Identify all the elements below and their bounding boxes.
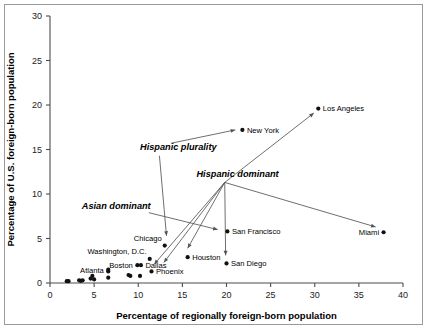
y-tick-label: 0 xyxy=(37,278,42,288)
x-tick-label: 20 xyxy=(221,290,231,300)
x-tick-label: 5 xyxy=(92,290,97,300)
y-tick-label: 15 xyxy=(32,145,42,155)
data-point-label: Washington, D.C. xyxy=(87,247,146,256)
annotation-arrows xyxy=(149,113,376,264)
y-axis-title: Percentage of U.S. foreign-born populati… xyxy=(5,52,16,246)
annotation-arrow-head xyxy=(230,129,235,133)
category-annotation: Asian dominant xyxy=(81,201,152,211)
data-point-label: Houston xyxy=(192,253,220,262)
annotation-labels: Hispanic pluralityHispanic dominantAsian… xyxy=(81,142,280,212)
data-point xyxy=(88,276,92,280)
annotation-arrow-head xyxy=(224,251,228,256)
data-point-label: New York xyxy=(247,126,279,135)
x-tick-label: 35 xyxy=(354,290,364,300)
annotation-leader-line xyxy=(149,213,218,230)
axis-titles: Percentage of regionally foreign-born po… xyxy=(5,52,337,321)
x-tick-label: 25 xyxy=(266,290,276,300)
annotation-leader-line xyxy=(188,182,225,248)
data-point-label: San Francisco xyxy=(232,227,281,236)
y-tick-label: 5 xyxy=(37,234,42,244)
data-point-label: Atlanta xyxy=(80,266,104,275)
y-tick-label: 10 xyxy=(32,189,42,199)
data-point xyxy=(224,261,228,265)
category-annotation: Hispanic plurality xyxy=(140,142,217,152)
data-point-label: Boston xyxy=(109,261,133,270)
x-tick-label: 30 xyxy=(310,290,320,300)
data-point xyxy=(135,263,139,267)
chart-canvas: 0510152025303540051015202530 Los Angeles… xyxy=(0,0,427,332)
data-point xyxy=(138,274,142,278)
category-annotation: Hispanic dominant xyxy=(196,169,279,179)
data-point-label: Miami xyxy=(359,228,380,237)
data-point xyxy=(106,276,110,280)
y-tick-label: 20 xyxy=(32,100,42,110)
x-tick-label: 15 xyxy=(177,290,187,300)
data-point xyxy=(186,255,190,259)
data-point xyxy=(92,277,96,281)
data-point xyxy=(66,279,70,283)
data-point xyxy=(225,229,229,233)
annotation-leader-line xyxy=(154,182,225,264)
figure-border xyxy=(5,5,423,325)
x-tick-label: 10 xyxy=(133,290,143,300)
plot-frame xyxy=(5,5,423,325)
annotation-leader-line xyxy=(164,182,225,262)
scatter-plot-figure: 0510152025303540051015202530 Los Angeles… xyxy=(0,0,427,332)
x-tick-label: 0 xyxy=(47,290,52,300)
data-point-label: Phoenix xyxy=(156,267,184,276)
data-point xyxy=(316,106,320,110)
x-tick-label: 40 xyxy=(398,290,408,300)
data-point-label: Los Angeles xyxy=(323,104,365,113)
y-tick-label: 30 xyxy=(32,11,42,21)
annotation-leader-line xyxy=(225,182,376,227)
y-tick-label: 25 xyxy=(32,56,42,66)
data-point xyxy=(128,274,132,278)
data-point-label: San Diego xyxy=(231,259,266,268)
annotation-leader-line xyxy=(159,156,166,236)
annotation-leader-line xyxy=(225,182,226,255)
data-point xyxy=(163,244,167,248)
data-point-labels: Los AngelesNew YorkMiamiSan FranciscoChi… xyxy=(80,104,379,276)
x-axis-title: Percentage of regionally foreign-born po… xyxy=(116,310,337,321)
data-point xyxy=(381,230,385,234)
annotation-arrow-head xyxy=(371,224,376,228)
data-point xyxy=(77,278,81,282)
data-point xyxy=(240,128,244,132)
axes xyxy=(50,16,403,283)
data-point-label: Chicago xyxy=(134,234,162,243)
